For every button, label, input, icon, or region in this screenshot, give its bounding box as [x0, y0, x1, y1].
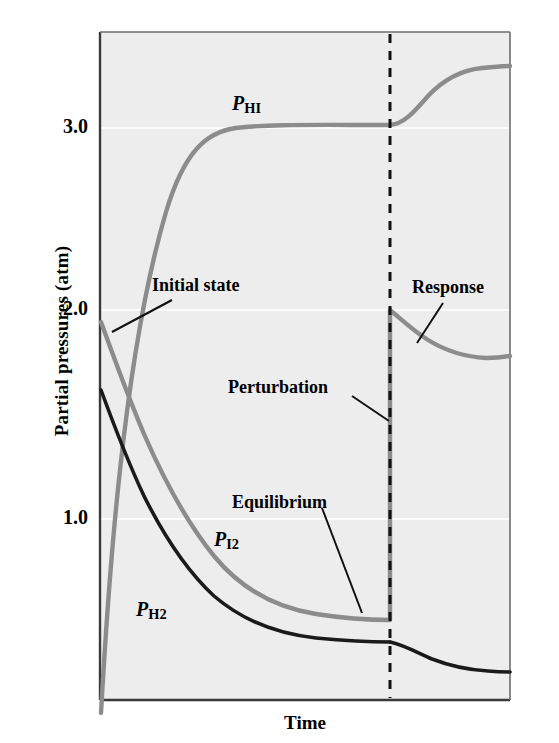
curve-label-p-h2: PH2 [136, 598, 167, 623]
y-tick-label-2: 2.0 [34, 297, 88, 320]
annotation-perturbation: Perturbation [228, 377, 328, 398]
y-tick-label-3: 3.0 [34, 115, 88, 138]
equilibrium-pressure-chart: Partial pressures (atm) Time 3.0 2.0 1.0… [0, 0, 559, 743]
y-tick-label-1: 1.0 [34, 506, 88, 529]
y-axis-label: Partial pressures (atm) [51, 211, 73, 471]
annotation-response: Response [412, 277, 484, 298]
chart-canvas [0, 0, 559, 743]
curve-label-p-i2: PI2 [214, 528, 239, 553]
annotation-equilibrium: Equilibrium [232, 492, 327, 513]
x-axis-label: Time [100, 712, 510, 734]
curve-label-p-hi: PHI [232, 92, 261, 117]
annotation-initial-state: Initial state [152, 275, 240, 296]
